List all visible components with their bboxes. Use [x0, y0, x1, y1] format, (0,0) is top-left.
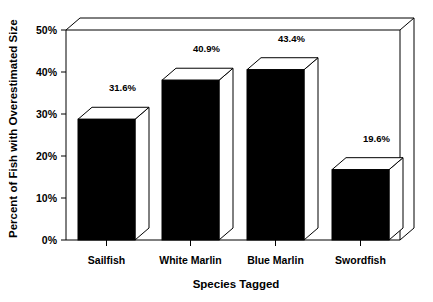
y-tick-label-30: 30% [36, 108, 58, 120]
bar-front-face [162, 80, 219, 240]
category-label-0: Sailfish [88, 254, 125, 266]
x-axis-title: Species Tagged [193, 278, 280, 290]
y-tick-label-10: 10% [36, 192, 58, 204]
value-label-1: 40.9% [193, 43, 220, 54]
y-axis-ticks [61, 30, 66, 240]
y-tick-label-50: 50% [36, 24, 58, 36]
bar-front-face [247, 70, 304, 240]
y-axis-title: Percent of Fish with Overestimated Size [7, 19, 19, 238]
bar-white-marlin [162, 68, 233, 240]
bar-side-face [135, 107, 149, 240]
bar-chart: Percent of Fish with Overestimated Size … [0, 0, 433, 302]
y-tick-label-40: 40% [36, 66, 58, 78]
y-tick-label-0: 0% [42, 234, 58, 246]
value-label-2: 43.4% [278, 33, 305, 44]
value-label-0: 31.6% [109, 82, 136, 93]
bar-front-face [78, 119, 135, 240]
category-label-3: Swordfish [335, 254, 386, 266]
y-axis-tick-labels: 0% 10% 20% 30% 40% 50% [36, 24, 58, 246]
value-label-3: 19.6% [363, 133, 390, 144]
bar-swordfish [332, 158, 403, 240]
y-tick-label-20: 20% [36, 150, 58, 162]
bar-front-face [332, 170, 389, 240]
x-axis-category-labels: SailfishWhite MarlinBlue MarlinSwordfish [88, 254, 386, 266]
category-label-1: White Marlin [159, 254, 221, 266]
bar-side-face [219, 68, 233, 240]
bar-side-face [304, 58, 318, 240]
bar-sailfish [78, 107, 149, 240]
chart-svg: Percent of Fish with Overestimated Size … [0, 0, 433, 302]
bar-side-face [389, 158, 403, 240]
category-label-2: Blue Marlin [247, 254, 304, 266]
x-axis-ticks [107, 240, 361, 246]
frame-back-top [66, 18, 414, 30]
bar-blue-marlin [247, 58, 318, 240]
